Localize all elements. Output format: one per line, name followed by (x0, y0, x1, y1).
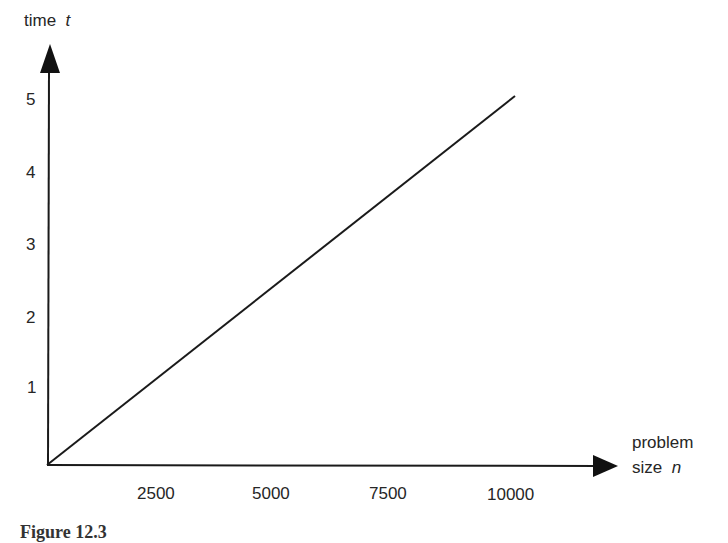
x-axis-arrow-icon (593, 455, 618, 477)
y-axis-label: time t (24, 11, 70, 31)
figure-caption: Figure 12.3 (20, 522, 107, 543)
x-axis-label-line1: problem (632, 433, 693, 453)
y-tick-4: 4 (26, 163, 35, 183)
y-axis (48, 68, 49, 466)
y-tick-5: 5 (26, 90, 35, 110)
y-axis-label-word: time (24, 11, 56, 30)
x-axis-label-line2: size n (632, 458, 681, 478)
data-line (47, 96, 515, 465)
x-axis (47, 465, 598, 466)
x-axis-label-word: size (632, 458, 662, 477)
y-axis-arrow-icon (40, 44, 60, 73)
x-tick-2500: 2500 (137, 484, 175, 504)
x-tick-7500: 7500 (369, 484, 407, 504)
y-tick-1: 1 (27, 378, 36, 398)
x-axis-label-var: n (672, 458, 681, 477)
y-tick-2: 2 (26, 308, 35, 328)
y-axis-label-var: t (66, 11, 71, 30)
y-tick-3: 3 (26, 235, 35, 255)
x-tick-10000: 10000 (487, 485, 534, 505)
x-tick-5000: 5000 (252, 484, 290, 504)
